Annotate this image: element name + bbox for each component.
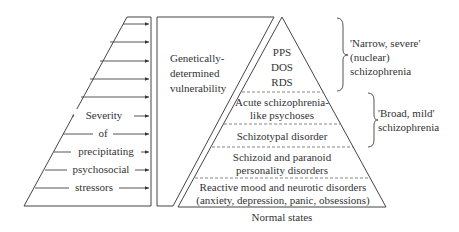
- bracket-narrow: [337, 18, 348, 91]
- narrow-line-1: 'Narrow, severe': [350, 36, 420, 50]
- tier-pps: PPS: [262, 45, 302, 60]
- tier-dos: DOS: [262, 60, 302, 75]
- stressor-label-1: Severity: [74, 109, 134, 122]
- broad-line-1: 'Broad, mild': [378, 106, 439, 120]
- tier-personality-disorders: Schizoid and paranoid personality disord…: [202, 151, 362, 177]
- broad-mild-label: 'Broad, mild' schizophrenia: [378, 106, 439, 134]
- broad-line-2: schizophrenia: [378, 120, 439, 134]
- tier-personality-line-1: Schizoid and paranoid: [202, 151, 362, 164]
- tier-acute-line-2: like psychoses: [222, 109, 342, 122]
- narrow-severe-label: 'Narrow, severe' (nuclear) schizophrenia: [350, 36, 420, 78]
- pyramid-base-label: Normal states: [242, 211, 322, 224]
- tier-acute-psychoses: Acute schizophrenia- like psychoses: [222, 96, 342, 122]
- tier-core-syndromes: PPS DOS RDS: [262, 45, 302, 90]
- stressor-label-3: precipitating: [71, 145, 141, 158]
- tier-reactive-disorders: Reactive mood and neurotic disorders (an…: [188, 181, 378, 207]
- stressor-label-4: psychosocial: [67, 163, 135, 176]
- vulnerability-line-1: Genetically-: [170, 51, 226, 66]
- narrow-line-2: (nuclear): [350, 50, 420, 64]
- vulnerability-label: Genetically- determined vulnerability: [170, 51, 226, 96]
- stressor-label-2: of: [93, 127, 113, 140]
- tier-personality-line-2: personality disorders: [202, 164, 362, 177]
- vulnerability-line-2: determined: [170, 66, 226, 81]
- narrow-line-3: schizophrenia: [350, 64, 420, 78]
- tier-rds: RDS: [262, 75, 302, 90]
- tier-reactive-line-1: Reactive mood and neurotic disorders: [188, 181, 378, 194]
- bracket-broad: [368, 93, 378, 147]
- tier-acute-line-1: Acute schizophrenia-: [222, 96, 342, 109]
- tier-schizotypal: Schizotypal disorder: [212, 130, 352, 143]
- stressor-label-5: stressors: [69, 181, 119, 194]
- tier-reactive-line-2: (anxiety, depression, panic, obsessions): [188, 194, 378, 207]
- vulnerability-line-3: vulnerability: [170, 81, 226, 96]
